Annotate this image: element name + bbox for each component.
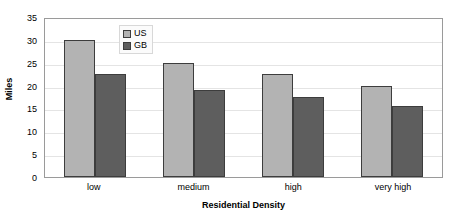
x-tick-label: low [59, 182, 129, 192]
plot-area: USGB [44, 18, 443, 178]
y-tick-label: 35 [27, 14, 37, 23]
y-tick-label: 0 [32, 174, 37, 183]
bar-gb-very-high [392, 106, 423, 177]
bar-group [163, 19, 225, 177]
y-tick-label: 25 [27, 59, 37, 68]
bars-layer [45, 19, 442, 177]
y-tick-label: 10 [27, 128, 37, 137]
bar-group [64, 19, 126, 177]
legend-swatch-us-icon [123, 30, 131, 38]
y-tick-label: 15 [27, 105, 37, 114]
bar-gb-low [95, 74, 126, 177]
bar-us-medium [163, 63, 194, 177]
bar-chart: Miles 35302520151050 USGB lowmediumhighv… [0, 0, 449, 221]
bar-us-very-high [361, 86, 392, 177]
y-tick-label: 5 [32, 151, 37, 160]
y-tick-label: 20 [27, 82, 37, 91]
bar-group [262, 19, 324, 177]
bar-us-high [262, 74, 293, 177]
legend-item: US [123, 29, 147, 38]
legend-label: US [134, 29, 147, 38]
legend-label: GB [134, 41, 147, 50]
x-axis-title: Residential Density [44, 200, 443, 210]
x-tick-label: very high [358, 182, 428, 192]
y-axis-title: Miles [0, 0, 18, 178]
x-tick-label: medium [159, 182, 229, 192]
legend-swatch-gb-icon [123, 42, 131, 50]
chart-legend: USGB [119, 25, 153, 54]
bar-us-low [64, 40, 95, 177]
y-axis-tick-labels: 35302520151050 [18, 18, 40, 178]
y-axis-title-text: Miles [4, 78, 14, 101]
x-tick-label: high [258, 182, 328, 192]
x-axis-tick-labels: lowmediumhighvery high [44, 182, 443, 196]
bar-group [361, 19, 423, 177]
bar-gb-high [293, 97, 324, 177]
bar-gb-medium [194, 90, 225, 177]
legend-item: GB [123, 41, 147, 50]
y-tick-label: 30 [27, 36, 37, 45]
